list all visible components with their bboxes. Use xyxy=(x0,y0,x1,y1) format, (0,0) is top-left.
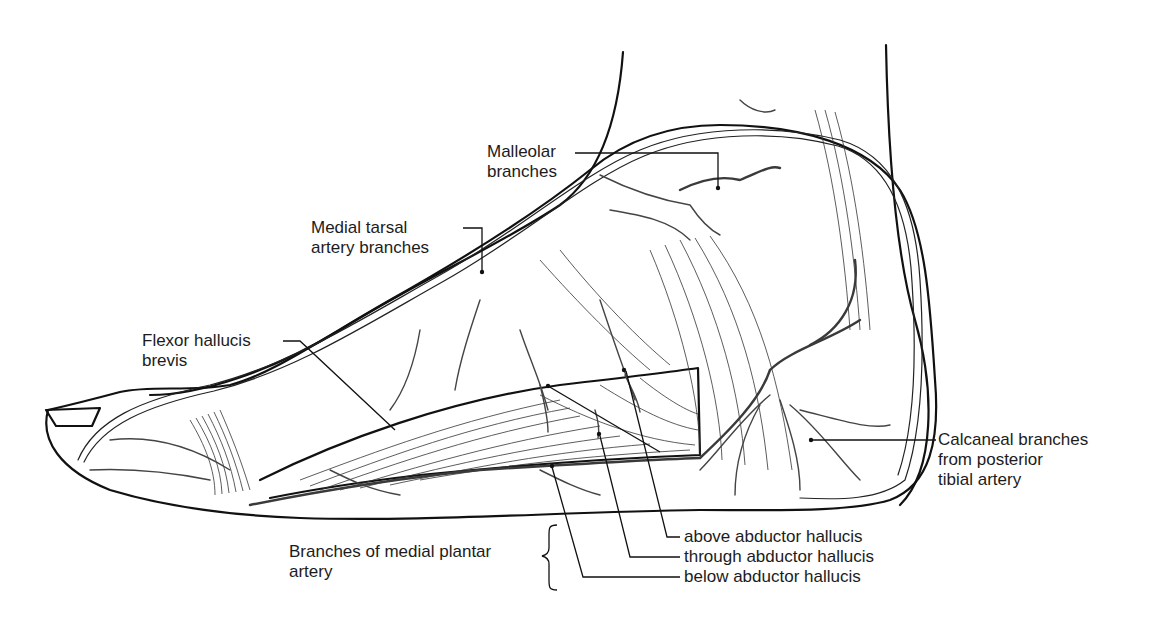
label-flexor-hallucis-brevis: Flexor hallucis brevis xyxy=(142,331,251,371)
label-medial-plantar-artery: Branches of medial plantar artery xyxy=(289,542,491,582)
toenail xyxy=(46,408,100,426)
label-medial-tarsal-artery: Medial tarsal artery branches xyxy=(311,218,429,258)
through-leader xyxy=(600,436,680,557)
inner-contour-2 xyxy=(84,136,914,475)
toe-tendon-hatching xyxy=(190,410,250,495)
below-leader xyxy=(552,467,680,577)
foot-line-drawing xyxy=(0,0,1160,621)
label-through-abductor-hallucis: through abductor hallucis xyxy=(684,547,874,567)
flexor-hallucis-leader xyxy=(283,341,395,430)
heel-fascia-hatching xyxy=(540,236,792,470)
inner-contour xyxy=(78,130,922,499)
medial-plantar-brace xyxy=(542,525,557,590)
label-above-abductor-hallucis: above abductor hallucis xyxy=(684,527,863,547)
label-below-abductor-hallucis: below abductor hallucis xyxy=(684,567,861,587)
foot-outer-contour xyxy=(46,125,936,519)
foot-anatomy-figure: Malleolar branches Medial tarsal artery … xyxy=(0,0,1160,621)
achilles-hatching xyxy=(815,110,870,330)
label-calcaneal-branches: Calcaneal branches from posterior tibial… xyxy=(938,430,1088,490)
label-malleolar-branches: Malleolar branches xyxy=(487,142,557,182)
